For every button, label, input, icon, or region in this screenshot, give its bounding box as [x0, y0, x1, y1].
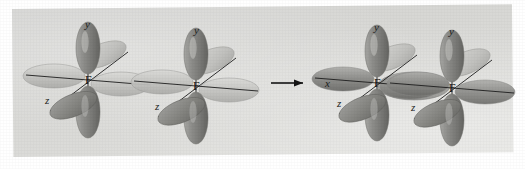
- product-atom-2-z-axis-label: z: [411, 102, 415, 113]
- figure-stage: y z F y z F y x z F y z F: [0, 0, 525, 169]
- reaction-arrow: [271, 79, 303, 86]
- product-atom-1-z-axis-label: z: [337, 98, 341, 109]
- orbital-scene: [0, 0, 525, 169]
- reactant-atom-2-element-label: F: [193, 80, 200, 92]
- product-atom-2-element-label: F: [449, 82, 456, 94]
- reactant-atom-2-y-axis-label: y: [194, 25, 199, 36]
- reactant-atom-1-element-label: F: [85, 74, 92, 86]
- product-atom-1-x-axis-label: x: [325, 78, 330, 89]
- reactant-atom-2-z-axis-label: z: [155, 101, 159, 112]
- product-atom-1-element-label: F: [374, 77, 381, 89]
- orbital-overlap-figure: y z F y z F y x z F y z F: [0, 0, 525, 169]
- reactant-atom-1-y-axis-label: y: [85, 19, 90, 30]
- product-atom-2-y-axis-label: y: [449, 26, 454, 37]
- reactant-atom-1-z-axis-label: z: [45, 95, 49, 106]
- product-atom-1-y-axis-label: y: [374, 22, 379, 33]
